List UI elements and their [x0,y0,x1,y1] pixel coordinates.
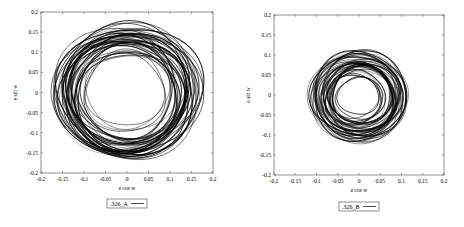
legend-label: .326_A [110,201,129,207]
legend: .326_A [107,199,147,208]
trajectory-series [51,21,204,160]
y-axis-title: e sin w [12,85,18,101]
chart-panel-b: -0.2-0.15-0.1-0.0500.050.10.150.20.20.15… [232,0,464,227]
x-tick-label: -0.05 [100,176,112,182]
y-tick-label: 0.2 [31,9,38,15]
x-tick-label: -0.2 [37,176,46,182]
trajectory-series [307,49,408,143]
y-tick-label: -0.1 [29,130,38,136]
x-tick-label: 0.15 [418,178,428,184]
x-tick-label: 0 [358,178,361,184]
y-tick-label: 0 [268,92,271,98]
chart-a-svg: -0.2-0.15-0.1-0.0500.050.10.150.20.20.15… [0,0,232,227]
x-tick-label: 0.2 [441,178,448,184]
x-tick-label: -0.1 [312,178,321,184]
y-tick-label: -0.15 [260,152,272,158]
y-tick-label: 0.05 [28,69,38,75]
x-tick-label: 0.2 [210,176,217,182]
x-tick-label: 0.05 [375,178,385,184]
x-tick-label: -0.2 [270,178,279,184]
y-tick-label: 0.1 [264,52,271,58]
x-tick-label: -0.15 [290,178,302,184]
y-tick-label: 0.05 [261,72,271,78]
chart-b-svg: -0.2-0.15-0.1-0.0500.050.10.150.20.20.15… [232,0,464,227]
x-tick-label: -0.15 [57,176,69,182]
legend-label: .326_B [342,204,360,210]
x-tick-label: 0.05 [144,176,154,182]
x-axis-title: e cos w [351,187,368,193]
y-tick-label: -0.05 [260,112,272,118]
y-tick-label: 0 [35,90,38,96]
y-tick-label: -0.15 [27,150,39,156]
y-axis-title: e sin w [245,87,251,103]
legend: .326_B [339,202,379,211]
x-tick-label: 0.1 [398,178,405,184]
x-tick-label: 0.1 [167,176,174,182]
x-tick-label: -0.1 [80,176,89,182]
y-tick-label: -0.2 [29,170,38,176]
x-tick-label: 0.15 [187,176,197,182]
x-tick-label: -0.05 [332,178,344,184]
y-tick-label: 0.2 [264,12,271,18]
y-tick-label: 0.15 [261,32,271,38]
plot-frame [274,15,444,175]
y-tick-label: 0.15 [28,29,38,35]
y-tick-label: 0.1 [31,49,38,55]
x-axis-title: e cos w [119,185,136,191]
chart-panel-a: -0.2-0.15-0.1-0.0500.050.10.150.20.20.15… [0,0,232,227]
y-tick-label: -0.1 [262,132,271,138]
x-tick-label: 0 [126,176,129,182]
y-tick-label: -0.05 [27,110,39,116]
y-tick-label: -0.2 [262,172,271,178]
